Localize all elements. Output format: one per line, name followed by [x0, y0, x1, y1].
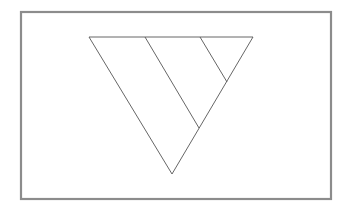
inverted-triangle: [89, 37, 253, 174]
outer-frame: [21, 12, 331, 199]
diagram-svg: [0, 0, 346, 212]
divider-line-1: [145, 37, 199, 128]
divider-line-2: [200, 37, 227, 82]
diagram-canvas: [0, 0, 346, 212]
